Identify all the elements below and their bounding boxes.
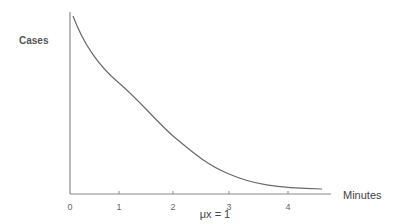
x-tick-label: 4 xyxy=(285,202,290,212)
y-axis-label: Cases xyxy=(19,35,48,46)
x-axis-label: Minutes xyxy=(343,189,382,201)
formula-annotation: μx = 1 xyxy=(200,208,231,220)
decay-curve xyxy=(73,16,322,189)
x-tick-label: 2 xyxy=(170,202,175,212)
x-tick-label: 1 xyxy=(116,202,121,212)
x-tick-label: 0 xyxy=(67,202,72,212)
decay-chart: Cases Minutes 0 1 2 3 4 μx = 1 xyxy=(0,0,399,224)
chart-canvas xyxy=(0,0,399,224)
